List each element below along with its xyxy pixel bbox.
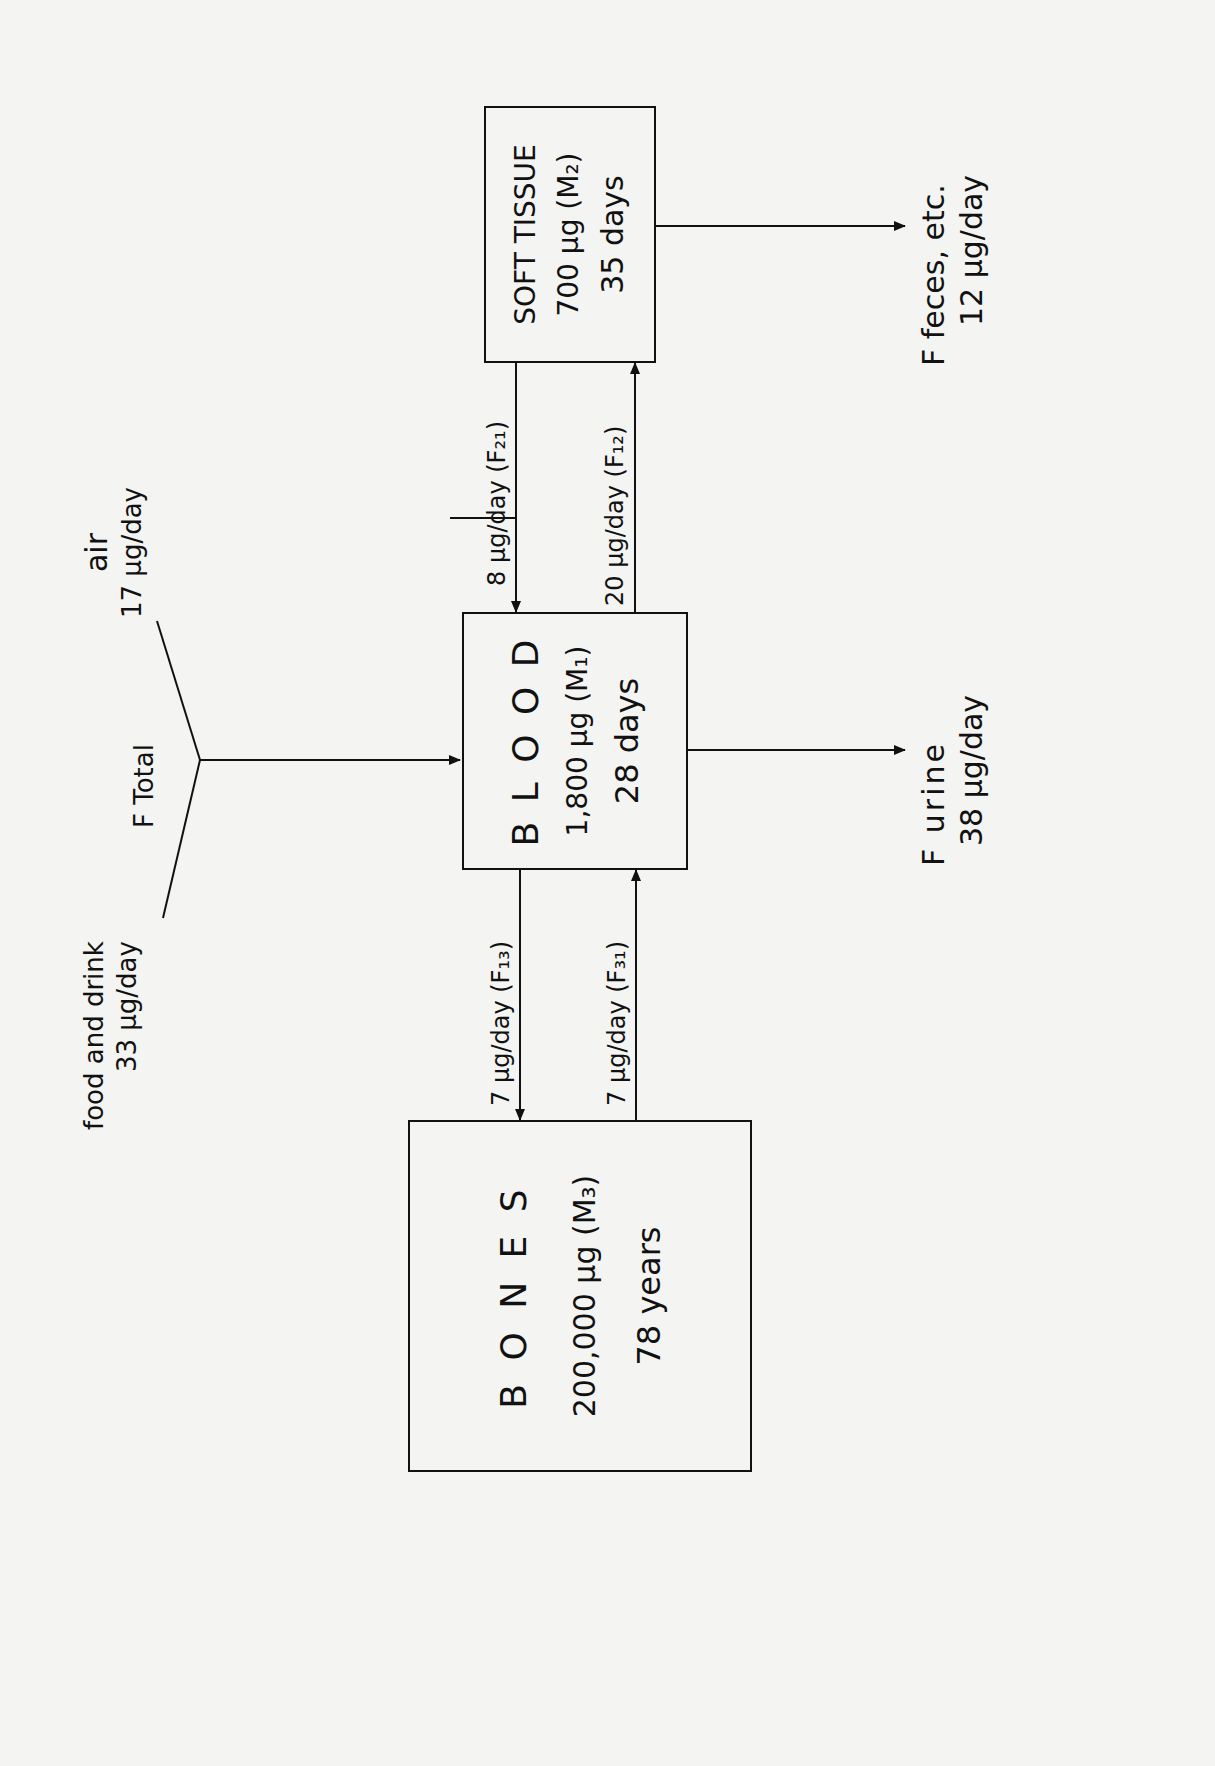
urine-value: 38 µg/day (953, 695, 991, 866)
urine-output-label: F urine 38 µg/day (915, 695, 990, 866)
food-label: food and drink (78, 941, 111, 1130)
blood-title: B L O O D (503, 636, 548, 847)
urine-label: F urine (915, 695, 953, 866)
soft-tissue-title: SOFT TISSUE (508, 144, 543, 325)
food-value: 33 µg/day (111, 941, 144, 1130)
feces-output-label: F feces, etc. 12 µg/day (915, 175, 990, 366)
soft-tissue-mass: 700 µg (M₂) (551, 152, 586, 316)
bones-mass: 200,000 µg (M₃) (566, 1175, 604, 1418)
flow-f12-label: 20 µg/day (F₁₂) (600, 426, 630, 606)
blood-compartment: B L O O D 1,800 µg (M₁) 28 days (462, 612, 688, 870)
blood-residence-time: 28 days (607, 678, 647, 804)
air-input-label: air 17 µg/day (78, 487, 148, 618)
bones-compartment: B O N E S 200,000 µg (M₃) 78 years (408, 1120, 752, 1472)
bones-residence-time: 78 years (629, 1227, 669, 1366)
flow-f21-label: 8 µg/day (F₂₁) (482, 421, 512, 586)
feces-label: F feces, etc. (915, 175, 953, 366)
blood-mass: 1,800 µg (M₁) (560, 646, 595, 837)
bones-title: B O N E S (491, 1183, 536, 1408)
food-input-label: food and drink 33 µg/day (78, 941, 143, 1130)
flow-f13-label: 7 µg/day (F₁₃) (486, 941, 516, 1106)
soft-tissue-residence-time: 35 days (594, 175, 632, 294)
air-label: air (78, 487, 116, 618)
feces-value: 12 µg/day (953, 175, 991, 366)
soft-tissue-compartment: SOFT TISSUE 700 µg (M₂) 35 days (484, 106, 656, 363)
flow-f31-label: 7 µg/day (F₃₁) (602, 941, 632, 1106)
total-input-label: F Total (128, 744, 161, 828)
air-value: 17 µg/day (116, 487, 149, 618)
diagram-canvas: B O N E S 200,000 µg (M₃) 78 years B L O… (0, 0, 1215, 1766)
